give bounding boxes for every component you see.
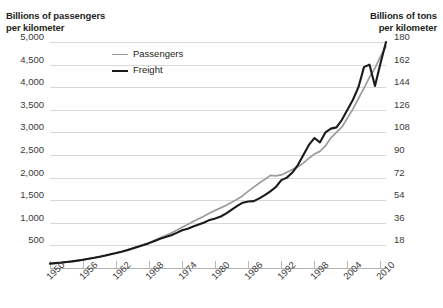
right-tick-18: 18 — [394, 234, 440, 245]
left-tick-4500: 4,500 — [0, 54, 44, 65]
legend-swatch-freight — [112, 70, 128, 72]
right-tick-72: 72 — [394, 167, 440, 178]
left-tick-1000: 1,000 — [0, 212, 44, 223]
series-line-freight — [50, 42, 386, 264]
right-tick-162: 162 — [394, 54, 440, 65]
legend-label-passengers: Passengers — [133, 48, 183, 59]
left-tick-5000: 5,000 — [0, 31, 44, 42]
left-tick-500: 500 — [0, 234, 44, 245]
right-tick-180: 180 — [394, 31, 440, 42]
left-tick-2500: 2,500 — [0, 144, 44, 155]
legend-label-freight: Freight — [133, 64, 163, 75]
chart-container: Billions of passengers per kilometer Bil… — [0, 0, 443, 308]
left-tick-3500: 3,500 — [0, 99, 44, 110]
left-tick-2000: 2,000 — [0, 167, 44, 178]
right-tick-108: 108 — [394, 121, 440, 132]
right-tick-54: 54 — [394, 189, 440, 200]
left-tick-1500: 1,500 — [0, 189, 44, 200]
right-tick-144: 144 — [394, 76, 440, 87]
left-tick-4000: 4,000 — [0, 76, 44, 87]
right-tick-126: 126 — [394, 99, 440, 110]
legend-swatch-passengers — [112, 54, 128, 55]
right-tick-36: 36 — [394, 212, 440, 223]
left-tick-3000: 3,000 — [0, 121, 44, 132]
right-tick-90: 90 — [394, 144, 440, 155]
